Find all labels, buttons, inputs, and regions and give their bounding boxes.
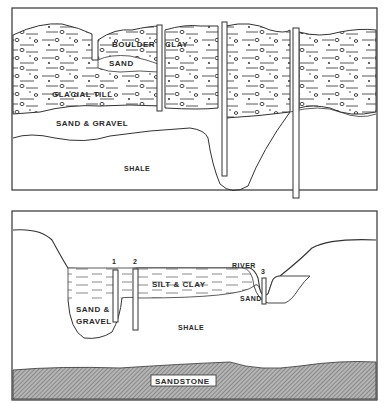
- top-panel: BOULDER CLAY SAND GLACIAL TILL SAND & GR…: [12, 8, 377, 198]
- label-sand: SAND: [109, 59, 134, 68]
- label-silt-clay: SILT & CLAY: [152, 280, 206, 289]
- glacial-till-block-3: [226, 24, 290, 118]
- label-glacial-till: GLACIAL TILL: [52, 90, 113, 99]
- label-sand-gravel: SAND & GRAVEL: [56, 119, 128, 128]
- label-well-1: 1: [112, 258, 116, 265]
- geologic-cross-sections: BOULDER CLAY SAND GLACIAL TILL SAND & GR…: [0, 0, 386, 403]
- label-sand-gravel-1: SAND &: [76, 305, 110, 314]
- bottom-panel: 1 2 3 RIVER SILT & CLAY SAND & GRAVEL SA…: [12, 211, 377, 400]
- label-clay: CLAY: [165, 40, 188, 49]
- label-boulder: BOULDER: [112, 40, 155, 49]
- label-sandstone: SANDSTONE: [155, 377, 210, 386]
- label-sand-gravel-2: GRAVEL: [76, 317, 112, 326]
- label-shale: SHALE: [124, 165, 150, 172]
- label-sand: SAND: [240, 295, 262, 302]
- label-river: RIVER: [232, 262, 256, 269]
- well-c: [293, 28, 299, 198]
- well-3: [262, 278, 266, 304]
- glacial-till-block-2: [165, 26, 218, 110]
- glacial-till-block-4: [299, 29, 376, 114]
- well-b: [222, 22, 227, 176]
- well-a: [157, 25, 162, 111]
- label-well-2: 2: [133, 258, 137, 265]
- well-2: [133, 269, 138, 330]
- well-1: [113, 270, 118, 322]
- label-shale: SHALE: [178, 324, 204, 331]
- label-well-3: 3: [261, 268, 265, 275]
